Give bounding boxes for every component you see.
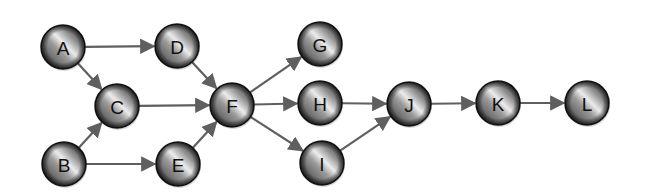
edge-f-to-g: [250, 57, 301, 92]
node-b: B: [42, 142, 87, 188]
edge-b-to-c: [79, 123, 102, 148]
node-f: F: [210, 83, 255, 129]
node-label: L: [582, 94, 593, 115]
node-label: B: [58, 155, 71, 176]
node-h: H: [298, 81, 343, 127]
edge-e-to-f: [193, 122, 217, 148]
dependency-graph: ABCDEFGHIJKL: [0, 0, 645, 192]
node-label: K: [492, 94, 505, 115]
edge-i-to-j: [340, 117, 390, 151]
node-label: G: [313, 35, 328, 56]
edge-d-to-f: [192, 62, 216, 88]
edge-a-to-d: [85, 46, 154, 47]
node-label: H: [313, 94, 327, 115]
node-j: J: [387, 82, 432, 128]
node-k: K: [476, 81, 521, 127]
node-d: D: [155, 24, 200, 70]
node-label: I: [319, 154, 324, 175]
node-label: A: [57, 38, 70, 59]
node-l: L: [565, 81, 610, 127]
node-label: D: [170, 37, 184, 58]
node-i: I: [300, 141, 345, 187]
node-c: C: [95, 84, 140, 130]
edge-f-to-i: [250, 117, 302, 151]
node-label: E: [172, 155, 185, 176]
node-label: F: [226, 96, 238, 117]
edge-a-to-c: [78, 63, 102, 89]
edge-c-to-f: [139, 105, 209, 106]
node-label: J: [404, 95, 414, 116]
node-a: A: [41, 25, 86, 71]
node-e: E: [156, 142, 201, 188]
node-g: G: [298, 22, 343, 68]
edge-f-to-h: [254, 104, 297, 105]
node-label: C: [110, 97, 124, 118]
